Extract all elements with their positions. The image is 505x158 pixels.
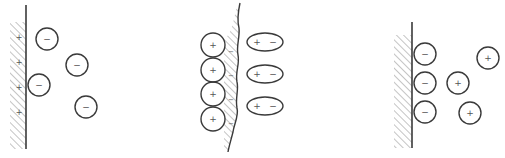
dipole-positive-end: + xyxy=(253,101,261,111)
panel-2: −−−− ++++ +−+−+− xyxy=(200,0,283,158)
wall-hatch xyxy=(394,35,412,148)
ion-charge-sign: − xyxy=(43,34,51,44)
ion-charge-sign: + xyxy=(454,78,462,88)
ion-group: −−−+++ xyxy=(414,43,499,124)
ion-charge-sign: + xyxy=(209,114,217,124)
negative-ion: − xyxy=(36,28,58,50)
ion-charge-sign: + xyxy=(209,40,217,50)
ion-group: −−−− xyxy=(28,28,97,118)
panel-3: −−−+++ xyxy=(394,22,499,148)
wall-charge-mark: − xyxy=(228,48,234,56)
dipole-negative-end: − xyxy=(269,69,277,79)
ion-group: ++++ xyxy=(201,33,225,131)
negative-ion: − xyxy=(414,72,436,94)
negative-ion: − xyxy=(28,74,50,96)
positive-ion: + xyxy=(201,82,225,106)
ion-charge-sign: + xyxy=(209,89,217,99)
ion-charge-sign: − xyxy=(82,102,90,112)
panel-1: ++++ −−−− xyxy=(10,5,97,149)
wall-charge-mark: − xyxy=(228,72,234,80)
ion-charge-sign: − xyxy=(421,78,429,88)
ion-charge-sign: + xyxy=(466,108,474,118)
negative-ion: − xyxy=(75,96,97,118)
ion-charge-sign: + xyxy=(209,65,217,75)
positive-ion: + xyxy=(201,33,225,57)
negative-ion: − xyxy=(414,43,436,65)
dipole-group: +−+−+− xyxy=(247,33,283,115)
dipole: +− xyxy=(247,97,283,115)
dipole-negative-end: − xyxy=(269,101,277,111)
ion-charge-sign: − xyxy=(421,107,429,117)
wall-charge-mark: + xyxy=(16,83,23,92)
positive-ion: + xyxy=(201,107,225,131)
wall-charge-mark: + xyxy=(16,58,23,67)
ion-charge-sign: − xyxy=(421,49,429,59)
wall-charge-mark: + xyxy=(16,33,23,42)
positive-ion: + xyxy=(201,58,225,82)
wall-charge-mark: − xyxy=(228,96,234,104)
dipole-negative-end: − xyxy=(269,37,277,47)
wall-charge-mark: − xyxy=(228,120,234,128)
dipole: +− xyxy=(247,65,283,83)
dipole: +− xyxy=(247,33,283,51)
negative-ion: − xyxy=(66,54,88,76)
dipole-positive-end: + xyxy=(253,37,261,47)
dipole-positive-end: + xyxy=(253,69,261,79)
wall-charge-mark: + xyxy=(16,108,23,117)
diagram-canvas: ++++ −−−− −−−− ++++ +−+−+− −−−+++ xyxy=(0,0,505,158)
positive-ion: + xyxy=(447,72,469,94)
ion-charge-sign: − xyxy=(35,80,43,90)
ion-charge-sign: + xyxy=(484,53,492,63)
ion-charge-sign: − xyxy=(73,60,81,70)
negative-ion: − xyxy=(414,101,436,123)
electric-double-layer-diagram: ++++ −−−− −−−− ++++ +−+−+− −−−+++ xyxy=(0,0,505,158)
positive-ion: + xyxy=(459,102,481,124)
positive-ion: + xyxy=(477,47,499,69)
